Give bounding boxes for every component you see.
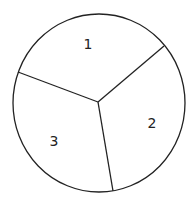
sector-label-2: 2 bbox=[148, 115, 157, 131]
sector-label-1: 1 bbox=[84, 36, 93, 52]
sector-label-3: 3 bbox=[50, 133, 59, 149]
sector-diagram: 1 2 3 bbox=[0, 0, 192, 197]
outer-circle bbox=[13, 14, 185, 192]
